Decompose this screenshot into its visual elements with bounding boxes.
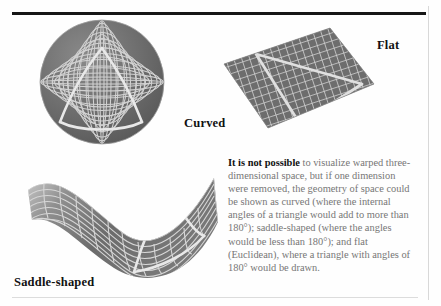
- geometry-of-space-figure: Curved: [0, 0, 441, 306]
- right-divider-rule: [428, 6, 429, 300]
- label-flat: Flat: [377, 38, 399, 53]
- caption-body: to visualize warped three-dimensional sp…: [228, 157, 410, 273]
- bottom-divider-rule: [12, 297, 418, 298]
- figure-caption: It is not possible to visualize warped t…: [228, 156, 416, 274]
- sphere-illustration: [22, 18, 182, 146]
- label-saddle: Saddle-shaped: [14, 275, 94, 290]
- saddle-body: [28, 178, 218, 278]
- top-divider-rule: [12, 12, 426, 15]
- flat-plane-svg: [212, 22, 384, 132]
- saddle-illustration: [18, 160, 228, 292]
- sphere-svg: [22, 18, 182, 146]
- caption-lead: It is not possible: [228, 157, 300, 168]
- saddle-svg: [18, 160, 228, 292]
- flat-plane-illustration: [212, 22, 384, 132]
